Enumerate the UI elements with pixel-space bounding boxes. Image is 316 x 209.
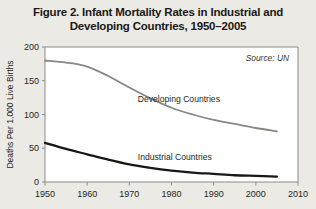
y-tick-label-0: 0 xyxy=(34,177,39,187)
series-label-industrial: Industrial Countries xyxy=(138,152,212,162)
series-label-developing: Developing Countries xyxy=(138,94,220,104)
x-tick-label-1950: 1950 xyxy=(35,189,55,199)
y-tick-label-200: 200 xyxy=(24,42,39,52)
y-tick-label-50: 50 xyxy=(29,143,39,153)
y-tick-label-150: 150 xyxy=(24,76,39,86)
source-note: Source: UN xyxy=(246,53,290,63)
x-tick-label-1980: 1980 xyxy=(161,189,181,199)
x-tick-label-2000: 2000 xyxy=(246,189,266,199)
x-tick-label-2010: 2010 xyxy=(288,189,308,199)
plot-background xyxy=(45,47,298,182)
figure-panel: Figure 2. Infant Mortality Rates in Indu… xyxy=(0,0,316,209)
y-axis-title: Deaths Per 1,000 Live Births xyxy=(5,60,15,168)
x-tick-label-1990: 1990 xyxy=(204,189,224,199)
chart-plot-area: 0501001502001950196019701980199020002010… xyxy=(0,0,316,209)
x-tick-label-1960: 1960 xyxy=(77,189,97,199)
y-tick-label-100: 100 xyxy=(24,110,39,120)
x-tick-label-1970: 1970 xyxy=(119,189,139,199)
